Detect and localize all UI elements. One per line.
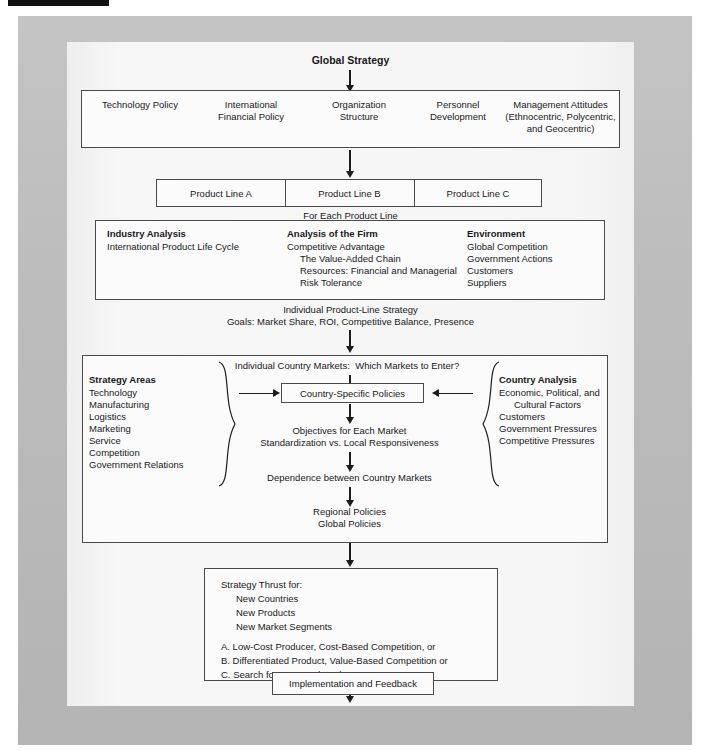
arrow-country-analysis-to-policies — [439, 393, 473, 394]
policy-cell-organization-structure: Organization Structure — [306, 99, 412, 123]
arrow-title-to-policies — [349, 70, 351, 86]
country-specific-policies-box: Country-Specific Policies — [281, 383, 424, 403]
product-line-strategy-line-2: Goals: Market Share, ROI, Competitive Ba… — [67, 316, 634, 328]
arrow-strategy-areas-to-policies — [239, 393, 273, 394]
policy-cell-technology-policy: Technology Policy — [84, 99, 196, 111]
global-policies-label: Global Policies — [167, 518, 532, 530]
strategy-area-2: Logistics — [89, 411, 126, 423]
strategy-area-5: Competition — [89, 447, 140, 459]
strategy-area-3: Marketing — [89, 423, 131, 435]
policy-cell-international-financial-policy: International Financial Policy — [196, 99, 306, 123]
environment-heading: Environment — [467, 228, 525, 240]
thrust-option-a: A. Low-Cost Producer, Cost-Based Competi… — [221, 641, 435, 653]
product-line-a: Product Line A — [157, 188, 285, 200]
industry-analysis-heading: Industry Analysis — [107, 228, 186, 240]
country-specific-policies-label: Country-Specific Policies — [282, 388, 423, 400]
thrust-item-0: New Countries — [236, 593, 298, 605]
arrow-policies-to-product-lines — [349, 150, 351, 172]
product-line-b: Product Line B — [285, 188, 414, 200]
environment-item-1: Government Actions — [467, 253, 553, 265]
thrust-option-b: B. Differentiated Product, Value-Based C… — [221, 655, 448, 667]
arrow-policies-to-objectives — [349, 404, 351, 418]
firm-analysis-item-0: Competitive Advantage — [287, 241, 385, 253]
strategy-area-4: Service — [89, 435, 121, 447]
environment-item-3: Suppliers — [467, 277, 507, 289]
strategy-thrust-box: Strategy Thrust for: New Countries New P… — [204, 568, 498, 681]
diagram-sheet: Global Strategy Technology Policy Intern… — [67, 42, 634, 706]
scan-artifact-bar — [8, 0, 109, 6]
firm-analysis-heading: Analysis of the Firm — [287, 228, 378, 240]
diagram-title: Global Strategy — [67, 54, 634, 66]
arrow-strategy-to-country-block — [349, 330, 351, 347]
policy-cell-personnel-development: Personnel Development — [412, 99, 504, 123]
arrow-country-block-to-thrust — [349, 543, 351, 561]
implementation-label: Implementation and Feedback — [273, 678, 433, 690]
objectives-line-2: Standardization vs. Local Responsiveness — [167, 437, 532, 449]
environment-item-0: Global Competition — [467, 241, 548, 253]
policy-cell-management-attitudes: Management Attitudes (Ethnocentric, Poly… — [502, 99, 619, 136]
firm-analysis-item-1: The Value-Added Chain — [300, 253, 401, 265]
regional-policies-label: Regional Policies — [167, 506, 532, 518]
implementation-box: Implementation and Feedback — [272, 672, 434, 695]
objectives-line-1: Objectives for Each Market — [167, 425, 532, 437]
product-line-strategy-line-1: Individual Product-Line Strategy — [67, 304, 634, 316]
thrust-item-2: New Market Segments — [236, 621, 332, 633]
strategy-areas-heading: Strategy Areas — [89, 374, 156, 386]
strategy-area-1: Manufacturing — [89, 399, 149, 411]
firm-analysis-item-2: Resources: Financial and Managerial — [300, 265, 457, 277]
arrow-objectives-to-dependence — [349, 452, 351, 466]
dependence-label: Dependence between Country Markets — [167, 472, 532, 484]
strategy-area-6: Government Relations — [89, 459, 184, 471]
thrust-item-1: New Products — [236, 607, 295, 619]
global-policies-box: Technology Policy International Financia… — [81, 90, 620, 148]
arrow-dependence-to-regional — [349, 487, 351, 501]
industry-analysis-item-0: International Product Life Cycle — [107, 241, 239, 253]
environment-item-2: Customers — [467, 265, 513, 277]
product-line-c: Product Line C — [414, 188, 542, 200]
country-analysis-item-2: Customers — [499, 411, 545, 423]
firm-analysis-item-3: Risk Tolerance — [300, 277, 362, 289]
country-analysis-item-0: Economic, Political, and — [499, 387, 600, 399]
thrust-heading: Strategy Thrust for: — [221, 579, 302, 591]
country-analysis-heading: Country Analysis — [499, 374, 577, 386]
product-lines-box: Product Line A Product Line B Product Li… — [156, 179, 542, 207]
country-analysis-item-1: Cultural Factors — [514, 399, 581, 411]
strategy-area-0: Technology — [89, 387, 137, 399]
